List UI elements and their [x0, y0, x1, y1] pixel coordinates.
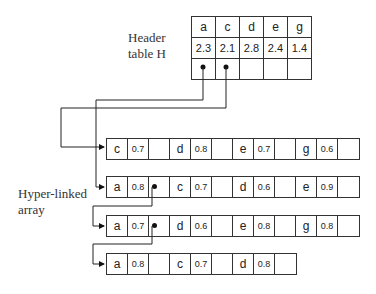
link-arrow — [96, 67, 203, 187]
link-lines — [0, 0, 376, 294]
link-arrow — [61, 67, 226, 147]
link-arrow — [93, 187, 152, 226]
link-arrow — [93, 226, 152, 264]
